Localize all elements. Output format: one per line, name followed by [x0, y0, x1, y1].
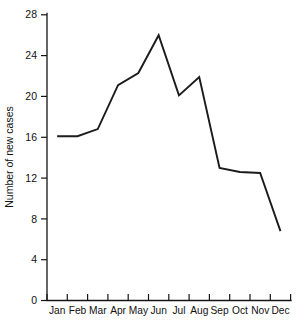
x-tick-label-dec: Dec [271, 305, 289, 316]
y-tick-label-24: 24 [25, 49, 37, 61]
chart-canvas: 0 4 8 12 16 20 24 28 Jan [0, 0, 297, 326]
x-axis-tick-labels: Jan Feb Mar Apr May Jun Jul Aug Sep Oct … [49, 305, 290, 316]
y-tick-label-16: 16 [25, 131, 37, 143]
y-tick-label-28: 28 [25, 8, 37, 20]
line-chart: 0 4 8 12 16 20 24 28 Jan [0, 0, 297, 326]
data-series-line [57, 35, 280, 231]
y-tick-label-4: 4 [31, 253, 37, 265]
y-tick-label-0: 0 [31, 294, 37, 306]
x-tick-label-may: May [129, 305, 149, 316]
x-tick-label-aug: Aug [190, 305, 208, 316]
y-tick-label-8: 8 [31, 213, 37, 225]
x-tick-label-feb: Feb [69, 305, 87, 316]
x-tick-label-jun: Jun [150, 305, 166, 316]
x-tick-label-jul: Jul [172, 305, 185, 316]
y-tick-marks [41, 15, 47, 301]
x-tick-label-oct: Oct [232, 305, 248, 316]
y-tick-label-20: 20 [25, 90, 37, 102]
x-tick-label-sep: Sep [211, 305, 229, 316]
x-tick-label-apr: Apr [110, 305, 126, 316]
y-tick-label-12: 12 [25, 172, 37, 184]
x-tick-label-nov: Nov [251, 305, 270, 316]
x-tick-label-mar: Mar [89, 305, 107, 316]
x-tick-label-jan: Jan [49, 305, 65, 316]
y-axis-title: Number of new cases [3, 106, 15, 208]
x-tick-marks [47, 294, 291, 301]
axis-lines [47, 14, 291, 301]
y-axis-tick-labels: 0 4 8 12 16 20 24 28 [25, 8, 37, 306]
